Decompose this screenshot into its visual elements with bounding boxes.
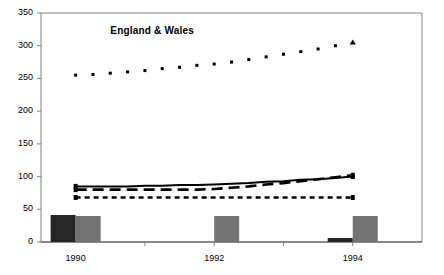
data-marker-England & Wales xyxy=(282,53,285,56)
plot-frame xyxy=(41,13,422,242)
y-axis-tick-label: 350 xyxy=(3,8,33,17)
data-marker-England & Wales xyxy=(195,64,198,67)
series-annotation-england-wales: England & Wales xyxy=(110,25,194,36)
data-marker-England & Wales xyxy=(265,55,268,58)
x-axis-tick-label: 1990 xyxy=(46,254,106,263)
y-axis-tick-label: 200 xyxy=(3,106,33,115)
x-axis-tick-label: 1994 xyxy=(323,254,383,263)
bar-bar-dark-1994 xyxy=(328,238,353,242)
bar-bar-gray-1990 xyxy=(76,216,101,242)
data-marker-England & Wales xyxy=(91,73,94,76)
data-marker-England & Wales xyxy=(126,70,129,73)
bar-bar-gray-1994 xyxy=(353,216,378,242)
data-marker-England & Wales xyxy=(178,66,181,69)
start-marker-series-dashed xyxy=(74,187,78,192)
data-marker-England & Wales xyxy=(74,74,77,77)
end-marker-series-dotted-flat xyxy=(351,195,355,200)
data-marker-England & Wales xyxy=(334,44,337,47)
end-marker-series-dashed xyxy=(351,173,355,178)
end-marker-triangle-England & Wales xyxy=(350,39,356,44)
data-marker-England & Wales xyxy=(143,69,146,72)
bar-bar-dark-1990 xyxy=(51,215,76,242)
data-marker-England & Wales xyxy=(317,47,320,50)
y-axis-tick-label: 0 xyxy=(3,237,33,246)
data-marker-England & Wales xyxy=(299,50,302,53)
data-marker-England & Wales xyxy=(247,58,250,61)
data-marker-England & Wales xyxy=(109,72,112,75)
data-marker-England & Wales xyxy=(213,63,216,66)
bar-bar-gray-1992 xyxy=(214,216,239,242)
x-axis-tick-label: 1992 xyxy=(184,254,244,263)
chart-figure: 050100150200250300350 199019921994 Engla… xyxy=(0,0,444,275)
series-line-series-solid xyxy=(76,177,353,187)
data-marker-England & Wales xyxy=(230,61,233,64)
y-axis-tick-label: 100 xyxy=(3,172,33,181)
data-marker-England & Wales xyxy=(161,67,164,70)
series-line-series-dashed xyxy=(76,175,353,189)
start-marker-series-dotted-flat xyxy=(74,195,78,200)
y-axis-tick-label: 300 xyxy=(3,41,33,50)
y-axis-tick-label: 50 xyxy=(3,204,33,213)
plot-canvas xyxy=(0,0,444,275)
y-axis-tick-label: 250 xyxy=(3,73,33,82)
y-axis-tick-label: 150 xyxy=(3,139,33,148)
